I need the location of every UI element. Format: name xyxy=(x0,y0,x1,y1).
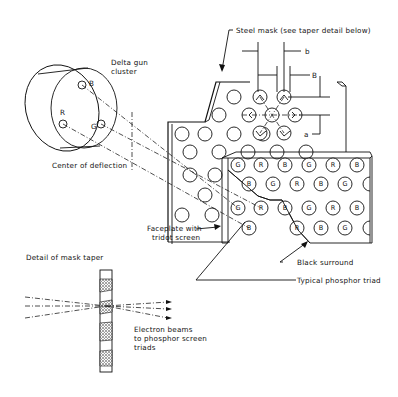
svg-text:R: R xyxy=(295,180,300,188)
svg-text:B: B xyxy=(355,161,359,169)
gun-label-blue: B xyxy=(89,79,94,88)
svg-text:B: B xyxy=(283,161,287,169)
dim-label-B: B xyxy=(312,71,317,80)
black-surround-label: Black surround xyxy=(297,258,354,267)
svg-text:G: G xyxy=(270,180,275,188)
electron-beams-label-2: to phosphor screen xyxy=(134,334,207,343)
svg-text:R: R xyxy=(331,204,336,212)
gun-label-red: R xyxy=(60,108,65,117)
dot-row-1: G R B G R B xyxy=(231,158,364,172)
faceplate-label-2: tridot screen xyxy=(152,233,200,242)
electron-beams-label-1: Electron beams xyxy=(134,325,193,334)
steel-mask-label: Steel mask (see taper detail below) xyxy=(236,26,371,35)
svg-text:B: B xyxy=(355,204,359,212)
svg-text:G: G xyxy=(342,180,347,188)
arrow-icon xyxy=(166,316,172,320)
dim-label-a: a xyxy=(304,130,309,139)
svg-text:G: G xyxy=(235,204,240,212)
dot-row-3: G R B G R B xyxy=(231,201,364,215)
svg-text:B: B xyxy=(319,180,323,188)
dimensioned-triad xyxy=(242,42,330,140)
svg-text:R: R xyxy=(331,161,336,169)
detail-taper-label: Detail of mask taper xyxy=(26,253,103,262)
dot-row-2: B G R B G xyxy=(242,177,370,191)
faceplate-label-1: Faceplate with xyxy=(147,224,202,233)
crt-shadow-mask-diagram: B R G Delta gun cluster Center of deflec… xyxy=(0,0,398,397)
delta-gun-label-2: cluster xyxy=(111,67,137,76)
phosphor-dots: G R B G R B B G R B G G R B G R B B R B … xyxy=(231,158,370,235)
gun-label-green: G xyxy=(91,122,97,131)
svg-text:R: R xyxy=(259,204,264,212)
svg-text:G: G xyxy=(306,161,311,169)
delta-gun-label-1: Delta gun xyxy=(111,58,148,67)
center-of-deflection-label: Center of deflection xyxy=(52,161,127,170)
svg-text:R: R xyxy=(259,161,264,169)
svg-text:G: G xyxy=(342,224,347,232)
steel-mask-leader xyxy=(222,30,233,70)
arrow-icon xyxy=(166,300,172,304)
svg-text:G: G xyxy=(306,204,311,212)
svg-text:G: G xyxy=(235,161,240,169)
dim-label-b: b xyxy=(305,47,310,56)
svg-text:B: B xyxy=(319,224,323,232)
dot-row-4: B R B G xyxy=(242,221,370,235)
mask-taper-detail xyxy=(25,270,172,372)
triad-leader-diagonal xyxy=(196,222,245,280)
typical-triad-label: Typical phosphor triad xyxy=(296,276,381,285)
electron-beams-label-3: triads xyxy=(134,343,156,352)
arrow-icon xyxy=(166,307,172,311)
